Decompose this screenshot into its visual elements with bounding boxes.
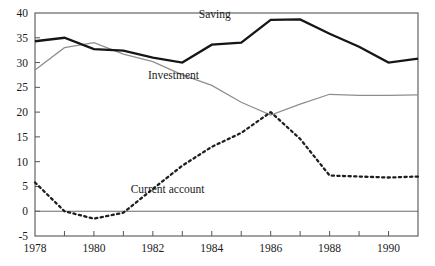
x-tick-label: 1982 xyxy=(141,242,164,254)
x-axis-tick-labels: 1978198019821984198619881990 xyxy=(24,242,401,254)
series-label-current-account: Current account xyxy=(131,183,206,195)
y-tick-label: 35 xyxy=(17,32,29,44)
series-label-investment: Investment xyxy=(148,69,200,81)
y-tick-label: 15 xyxy=(17,131,29,143)
series-line-investment xyxy=(35,43,418,115)
series-label-saving: Saving xyxy=(199,8,231,21)
y-tick-label: 5 xyxy=(22,180,28,192)
chart-container: -50510152025303540 197819801982198419861… xyxy=(0,0,435,266)
series-line-saving xyxy=(35,19,418,62)
x-tick-label: 1986 xyxy=(259,242,282,254)
y-tick-label: -5 xyxy=(18,230,28,242)
x-tick-label: 1984 xyxy=(200,242,223,254)
x-tick-label: 1978 xyxy=(24,242,47,254)
y-tick-label: 25 xyxy=(17,81,29,93)
x-tick-label: 1990 xyxy=(377,242,400,254)
y-axis-tick-labels: -50510152025303540 xyxy=(17,7,29,242)
x-tick-label: 1980 xyxy=(82,242,105,254)
x-axis-ticks xyxy=(64,231,388,236)
y-axis-ticks xyxy=(35,38,40,211)
x-tick-label: 1988 xyxy=(318,242,341,254)
y-tick-label: 40 xyxy=(17,7,29,19)
y-tick-label: 30 xyxy=(17,57,29,69)
y-tick-label: 20 xyxy=(17,106,29,118)
y-tick-label: 0 xyxy=(22,205,28,217)
line-chart: -50510152025303540 197819801982198419861… xyxy=(0,0,435,266)
y-tick-label: 10 xyxy=(17,156,29,168)
series-line-current-account xyxy=(35,112,418,219)
